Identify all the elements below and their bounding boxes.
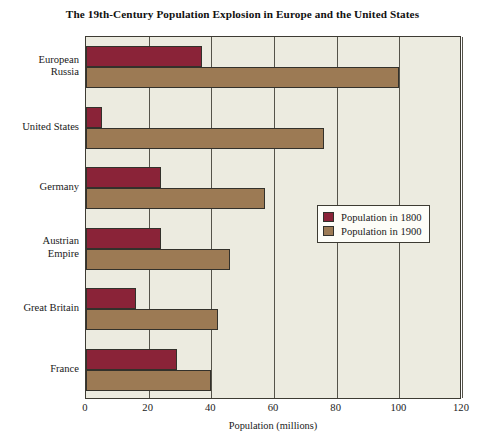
bar-1900	[86, 67, 399, 88]
x-axis-title: Population (millions)	[85, 420, 461, 431]
gridline	[462, 37, 463, 398]
bar-1900	[86, 309, 218, 330]
gridline	[274, 37, 275, 398]
y-axis-label-line: France	[1, 363, 79, 376]
bar-group	[86, 167, 460, 209]
bar-group	[86, 288, 460, 330]
chart-legend: Population in 1800Population in 1900	[317, 205, 430, 243]
legend-swatch-icon	[323, 212, 334, 222]
y-axis-label-line: European	[1, 54, 79, 67]
y-axis-label-0: EuropeanRussia	[1, 54, 79, 79]
y-axis-label-2: Germany	[1, 181, 79, 194]
y-axis-label-1: United States	[1, 121, 79, 134]
bar-1800	[86, 288, 136, 309]
x-axis-tick-label: 0	[65, 402, 105, 413]
bar-group	[86, 349, 460, 391]
y-axis-label-line: Russia	[1, 66, 79, 79]
legend-swatch-icon	[323, 226, 334, 236]
x-axis-tick-label: 100	[378, 402, 418, 413]
y-axis-label-line: Germany	[1, 181, 79, 194]
y-axis-label-4: Great Britain	[1, 302, 79, 315]
legend-entry-0: Population in 1800	[323, 210, 422, 224]
x-axis-tick-label: 60	[253, 402, 293, 413]
y-axis-labels: EuropeanRussiaUnited StatesGermanyAustri…	[0, 36, 79, 399]
legend-entry-1: Population in 1900	[323, 224, 422, 238]
bar-1900	[86, 249, 230, 270]
bar-group	[86, 46, 460, 88]
y-axis-label-5: France	[1, 363, 79, 376]
gridline	[149, 37, 150, 398]
y-axis-label-line: Great Britain	[1, 302, 79, 315]
legend-label: Population in 1800	[341, 212, 422, 223]
bar-1800	[86, 349, 177, 370]
x-axis-tick-label: 40	[190, 402, 230, 413]
y-axis-label-line: Austrian	[1, 235, 79, 248]
bar-1800	[86, 107, 102, 128]
bar-1900	[86, 370, 211, 391]
population-bar-chart: The 19th-Century Population Explosion in…	[0, 0, 485, 445]
x-axis-tick-label: 20	[128, 402, 168, 413]
y-axis-label-line: United States	[1, 121, 79, 134]
bar-1900	[86, 128, 324, 149]
x-axis-tick-label: 120	[441, 402, 481, 413]
chart-title: The 19th-Century Population Explosion in…	[0, 8, 485, 20]
x-axis-labels: 020406080100120	[0, 402, 485, 418]
y-axis-label-3: AustrianEmpire	[1, 235, 79, 260]
gridline	[211, 37, 212, 398]
y-axis-label-line: Empire	[1, 248, 79, 261]
x-axis-tick-label: 80	[316, 402, 356, 413]
bar-1800	[86, 46, 202, 67]
bar-1800	[86, 228, 161, 249]
legend-label: Population in 1900	[341, 226, 422, 237]
bar-group	[86, 107, 460, 149]
bar-1900	[86, 188, 265, 209]
bar-1800	[86, 167, 161, 188]
